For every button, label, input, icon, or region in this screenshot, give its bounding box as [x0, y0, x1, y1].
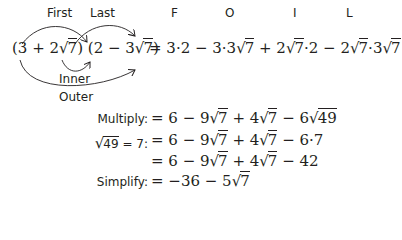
step-expression: = −36 − 5√7	[151, 172, 250, 190]
step-expression: = 6 − 9√7 + 4√7 − 6√49	[151, 109, 337, 127]
radical: √7	[59, 39, 77, 57]
step-label-simplify: Simplify:	[80, 175, 148, 189]
step-expression: = 6 − 9√7 + 4√7 − 42	[151, 152, 319, 170]
step-label-multiply: Multiply:	[80, 112, 148, 126]
expanded-expression: = 3·2 − 3·3√7 + 2√7·2 − 2√7·3√7	[149, 39, 401, 57]
inner-arrow	[62, 60, 90, 71]
main-equation: (3 + 2√7) (2 − 3√7)	[12, 39, 159, 57]
label-inner: Inner	[59, 72, 90, 86]
step-label-sqrt49: √49 = 7:	[80, 134, 148, 152]
label-outer: Outer	[59, 90, 93, 104]
step-expression: = 6 − 9√7 + 4√7 − 6·7	[151, 131, 323, 149]
